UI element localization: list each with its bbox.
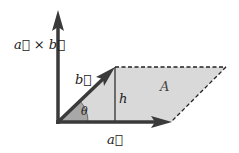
area-label: A xyxy=(160,80,169,93)
vector-b-label: b⃗ xyxy=(75,73,91,86)
cross-product-label: a⃗ × b⃗ xyxy=(14,38,65,51)
vector-a-label: a⃗ xyxy=(107,133,123,146)
height-label: h xyxy=(119,92,127,105)
cross-product-diagram: a⃗ × b⃗ b⃗ h A θ a⃗ xyxy=(0,0,239,153)
diagram-graphic xyxy=(0,0,239,153)
angle-theta-label: θ xyxy=(81,106,88,117)
